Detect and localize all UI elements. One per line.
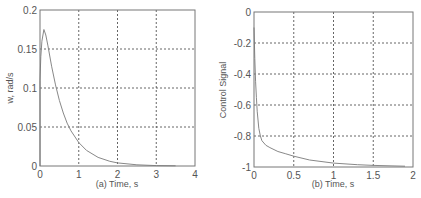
plot-angular-velocity: 01234 00.050.10.150.2 (a) Time, s w, rad… bbox=[5, 5, 198, 190]
y-tick-label: 0 bbox=[31, 161, 37, 172]
x-tick-label: 3 bbox=[153, 169, 159, 180]
grid-lines bbox=[254, 12, 413, 167]
series-line bbox=[40, 30, 176, 167]
x-tick-label: 0 bbox=[37, 169, 43, 180]
x-tick-label: 0 bbox=[251, 170, 257, 181]
data-line-angular-velocity bbox=[40, 30, 176, 167]
x-axis-label: (b) Time, s bbox=[312, 179, 355, 189]
y-tick-labels: -1-0.8-0.6-0.4-0.20 bbox=[234, 7, 252, 173]
x-tick-label: 4 bbox=[192, 169, 198, 180]
x-tick-label: 2 bbox=[410, 170, 416, 181]
y-tick-label: 0 bbox=[245, 7, 251, 18]
y-tick-label: 0.05 bbox=[18, 122, 38, 133]
y-tick-label: 0.15 bbox=[18, 44, 38, 55]
y-tick-label: -0.6 bbox=[234, 100, 252, 111]
figure: 01234 00.050.10.150.2 (a) Time, s w, rad… bbox=[0, 0, 421, 198]
y-tick-label: -0.8 bbox=[234, 131, 252, 142]
x-tick-label: 1.5 bbox=[366, 170, 380, 181]
y-tick-label: 0.1 bbox=[23, 83, 37, 94]
y-tick-label: -0.4 bbox=[234, 69, 252, 80]
y-axis-label: Control Signal bbox=[218, 62, 228, 119]
grid-lines bbox=[40, 10, 195, 166]
plot-control-signal: 00.511.52 -1-0.8-0.6-0.4-0.20 (b) Time, … bbox=[218, 7, 416, 190]
y-tick-labels: 00.050.10.150.2 bbox=[18, 5, 38, 172]
x-axis-label: (a) Time, s bbox=[96, 179, 139, 189]
y-tick-label: -0.2 bbox=[234, 38, 252, 49]
x-tick-label: 1 bbox=[76, 169, 82, 180]
y-tick-label: 0.2 bbox=[23, 5, 37, 16]
data-line-control-signal bbox=[254, 28, 405, 167]
x-tick-label: 0.5 bbox=[287, 170, 301, 181]
y-tick-label: -1 bbox=[242, 162, 251, 173]
series-line bbox=[254, 28, 405, 167]
y-axis-label: w, rad/s bbox=[5, 72, 15, 105]
